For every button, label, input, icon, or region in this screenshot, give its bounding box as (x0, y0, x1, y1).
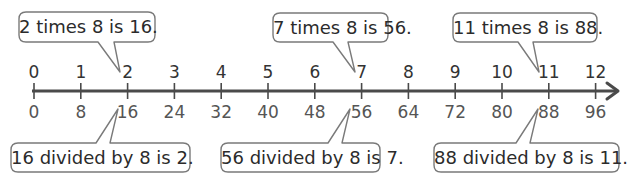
bottom-label: 0 (29, 104, 40, 121)
bottom-label: 48 (304, 104, 326, 121)
callout-bottom-3-text: 88 divided by 8 is 11. (434, 144, 619, 172)
bottom-label: 32 (210, 104, 232, 121)
top-label: 8 (403, 64, 414, 81)
callout-bottom-1-text: 16 divided by 8 is 2. (11, 144, 190, 172)
top-label: 4 (216, 64, 227, 81)
top-label: 12 (585, 64, 607, 81)
callout-top-2-text: 7 times 8 is 56. (273, 14, 388, 42)
bottom-label: 24 (164, 104, 186, 121)
top-label: 2 (122, 64, 133, 81)
callout-bottom-2-text: 56 divided by 8 is 7. (221, 144, 380, 172)
bottom-label: 80 (491, 104, 513, 121)
bottom-label: 72 (444, 104, 466, 121)
bottom-label: 56 (351, 104, 373, 121)
bottom-label: 40 (257, 104, 279, 121)
top-label: 6 (309, 64, 320, 81)
bottom-label: 96 (585, 104, 607, 121)
top-label: 3 (169, 64, 180, 81)
top-label: 1 (75, 64, 86, 81)
top-label: 9 (450, 64, 461, 81)
top-label: 5 (263, 64, 274, 81)
bottom-label: 64 (398, 104, 420, 121)
double-number-line-diagram: 0 1 2 3 4 5 6 7 8 9 10 11 12 0 8 16 24 3… (0, 0, 636, 179)
bottom-label: 88 (538, 104, 560, 121)
top-label: 11 (538, 64, 560, 81)
callout-top-1-text: 2 times 8 is 16. (19, 13, 155, 41)
top-label: 0 (29, 64, 40, 81)
top-label: 10 (491, 64, 513, 81)
bottom-label: 8 (75, 104, 86, 121)
top-label: 7 (356, 64, 367, 81)
bottom-label: 16 (117, 104, 139, 121)
callout-top-3-text: 11 times 8 is 88. (453, 14, 597, 42)
